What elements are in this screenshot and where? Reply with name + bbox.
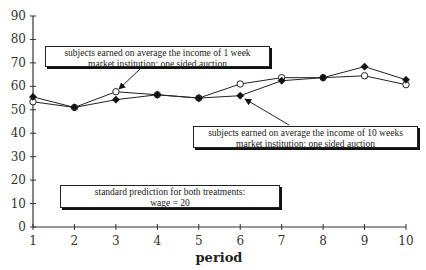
x-tick-label: 9 (361, 234, 369, 248)
x-tick-label: 3 (112, 234, 120, 248)
open-circle-marker (113, 89, 119, 95)
arrow-ten-weeks (245, 99, 289, 125)
open-circle-marker (361, 73, 367, 79)
x-axis-title: period (196, 250, 243, 265)
filled-diamond-marker (361, 63, 368, 70)
annotation-one-week-line1: subjects earned on average the income of… (46, 48, 269, 59)
annotation-ten-weeks-line1: subjects earned on average the income of… (194, 128, 417, 139)
x-tick-label: 1 (29, 234, 37, 248)
arrow-one-week (119, 68, 141, 89)
x-tick-label: 4 (154, 234, 162, 248)
annotation-prediction-line2: wage = 20 (61, 198, 279, 209)
y-tick-label: 90 (11, 9, 26, 23)
x-tick-label: 5 (195, 234, 203, 248)
x-tick-label: 10 (398, 234, 413, 248)
filled-diamond-marker (237, 92, 244, 99)
series-lines (29, 63, 409, 111)
x-tick-label: 8 (319, 234, 327, 248)
y-tick-label: 60 (11, 79, 26, 93)
x-tick-label: 7 (278, 234, 286, 248)
annotation-prediction-line1: standard prediction for both treatments: (61, 187, 279, 198)
y-tick-label: 0 (18, 220, 26, 234)
annotation-one-week-line2: market institution: one sided auction (46, 59, 269, 70)
annotation-ten-weeks-line2: market institution: one sided auction (194, 139, 417, 150)
y-tick-label: 10 (11, 197, 26, 211)
y-tick-label: 30 (11, 150, 26, 164)
filled-diamond-marker (112, 96, 119, 103)
annotation-prediction: standard prediction for both treatments:… (60, 185, 280, 208)
x-tick-label: 2 (71, 234, 79, 248)
y-tick-label: 80 (11, 32, 26, 46)
open-circle-marker (237, 81, 243, 87)
series-10-weeks-line (33, 67, 406, 108)
annotation-ten-weeks: subjects earned on average the income of… (193, 126, 418, 148)
y-tick-label: 50 (11, 103, 26, 117)
y-tick-label: 20 (11, 173, 26, 187)
series-1-week-line (33, 76, 406, 108)
x-tick-label: 6 (236, 234, 244, 248)
y-tick-label: 70 (11, 56, 26, 70)
y-tick-label: 40 (11, 126, 26, 140)
annotation-one-week: subjects earned on average the income of… (45, 46, 270, 67)
